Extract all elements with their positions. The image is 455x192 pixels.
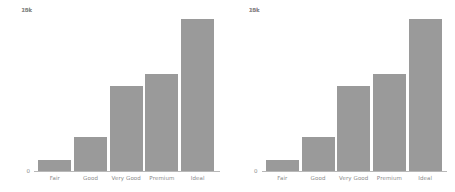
y-tick-label: 20k — [22, 7, 32, 13]
chart-panel-right: 0 5k 10k 15k 20k Fair Good Very Go — [228, 0, 455, 192]
bar-slot-very-good: Very Good — [336, 10, 372, 171]
bar-ideal[interactable] — [181, 19, 214, 171]
bar-slot-good: Good — [300, 10, 336, 171]
x-tick-label-ideal: Ideal — [191, 175, 205, 181]
x-tick-label-fair: Fair — [277, 175, 287, 181]
x-tick-label-fair: Fair — [50, 175, 60, 181]
x-tick-label-ideal: Ideal — [418, 175, 432, 181]
bar-premium[interactable] — [373, 74, 406, 171]
bar-slot-premium: Premium — [372, 10, 408, 171]
y-tick-label-zero-left: 0 — [27, 168, 31, 174]
x-tick-label-premium: Premium — [149, 175, 174, 181]
bar-series-right: Fair Good Very Good Premium Ideal — [265, 10, 444, 171]
bar-very-good[interactable] — [337, 86, 370, 171]
bar-chart-figure: 0 5k 10k 15k 20k Fair Good Very Go — [0, 0, 455, 192]
bar-good[interactable] — [74, 137, 107, 171]
plot-area-left: 5k 10k 15k 20k Fair Good Very Good — [37, 10, 216, 171]
y-tick-label-zero-right: 0 — [254, 168, 258, 174]
x-axis-line-left — [34, 171, 220, 172]
bar-slot-fair: Fair — [37, 10, 73, 171]
bar-slot-premium: Premium — [144, 10, 180, 171]
bar-slot-very-good: Very Good — [108, 10, 144, 171]
bar-very-good[interactable] — [110, 86, 143, 171]
bar-series-left: Fair Good Very Good Premium Ideal — [37, 10, 216, 171]
bar-premium[interactable] — [145, 74, 178, 171]
x-tick-label-very-good: Very Good — [339, 175, 368, 181]
bar-ideal[interactable] — [409, 19, 442, 171]
bar-slot-fair: Fair — [265, 10, 301, 171]
chart-panel-left: 0 5k 10k 15k 20k Fair Good Very Go — [0, 0, 228, 192]
x-tick-label-good: Good — [311, 175, 326, 181]
y-tick-label: 20k — [249, 7, 259, 13]
bar-good[interactable] — [302, 137, 335, 171]
bar-slot-ideal: Ideal — [180, 10, 216, 171]
x-tick-label-premium: Premium — [377, 175, 402, 181]
bar-slot-ideal: Ideal — [407, 10, 443, 171]
bar-fair[interactable] — [38, 160, 71, 171]
x-tick-label-good: Good — [83, 175, 98, 181]
x-axis-line-right — [262, 171, 448, 172]
bar-fair[interactable] — [266, 160, 299, 171]
plot-area-right: 5k 10k 15k 20k Fair Good Very Good — [265, 10, 444, 171]
x-tick-label-very-good: Very Good — [112, 175, 141, 181]
bar-slot-good: Good — [73, 10, 109, 171]
